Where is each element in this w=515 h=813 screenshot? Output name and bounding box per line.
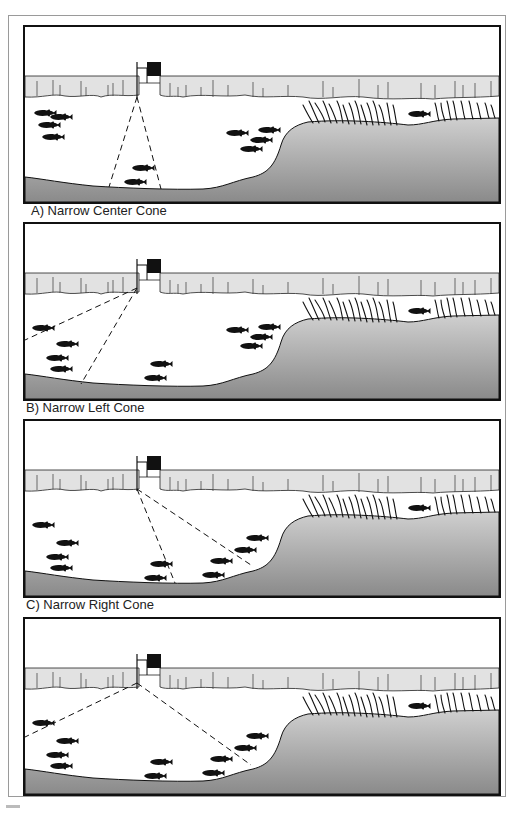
panel-d-diagram xyxy=(23,617,501,796)
panel-c-caption: C) Narrow Right Cone xyxy=(26,598,154,612)
panel-b-caption: B) Narrow Left Cone xyxy=(26,401,145,415)
panel-a-diagram xyxy=(23,25,501,204)
panel-c-diagram xyxy=(23,419,501,598)
page-mark xyxy=(6,805,20,808)
panel-a-caption: A) Narrow Center Cone xyxy=(31,204,167,218)
panel-b-diagram xyxy=(23,222,501,401)
